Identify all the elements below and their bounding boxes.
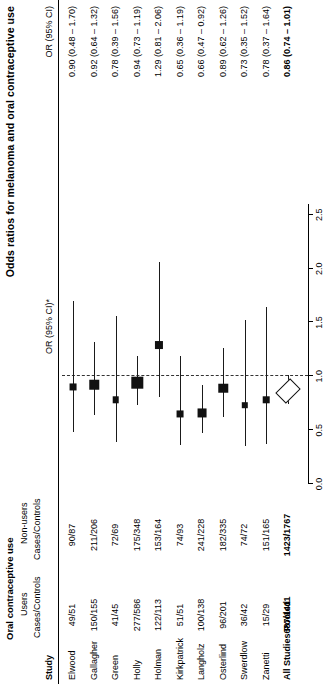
- study-effect-marker: [69, 384, 76, 391]
- column-header-users: Users: [19, 592, 29, 616]
- column-header-study: Study: [44, 655, 54, 680]
- axis-tick-label: 2.5: [314, 209, 324, 222]
- study-name-cell: Green: [105, 655, 127, 680]
- study-effect-marker: [132, 377, 143, 388]
- nonusers-cases-controls-cell: 211/206: [84, 498, 106, 572]
- axis-tick-label: 1.5: [314, 316, 324, 329]
- study-effect-marker: [177, 411, 184, 418]
- nonusers-cases-controls-cell: 182/335: [213, 498, 235, 572]
- axis-tick: [308, 214, 313, 215]
- column-header-nonusers: Non-users: [19, 502, 29, 544]
- nonusers-cases-controls-cell: 74/72: [234, 498, 256, 572]
- study-effect-marker: [155, 341, 163, 349]
- study-effect-marker: [197, 408, 206, 417]
- nonusers-cases-controls-cell: 151/165: [256, 498, 278, 572]
- odds-ratio-cell: 0.65 (0.36 – 1.19): [170, 6, 192, 77]
- odds-ratio-cell: 0.66 (0.47 – 0.92): [191, 6, 213, 77]
- odds-ratio-cell: 0.73 (0.35 – 1.52): [234, 6, 256, 77]
- column-header-or-table: OR (95% CI): [44, 6, 54, 58]
- nonusers-cases-controls-cell: 72/69: [105, 498, 127, 572]
- column-header-users-cases-controls: Cases/Controls: [32, 576, 42, 638]
- users-cases-controls-cell: 687/1411: [277, 580, 299, 650]
- x-axis-line: [308, 204, 309, 484]
- study-effect-marker: [242, 402, 248, 408]
- axis-tick-label: 0.0: [314, 478, 324, 491]
- users-cases-controls-cell: 122/113: [148, 580, 170, 650]
- confidence-interval-bar: [180, 356, 181, 445]
- axis-tick-label: 1.0: [314, 370, 324, 383]
- axis-tick: [308, 321, 313, 322]
- axis-tick: [308, 429, 313, 430]
- confidence-interval-bar: [73, 301, 74, 432]
- confidence-interval-bar: [159, 262, 160, 397]
- nonusers-cases-controls-cell: 175/348: [127, 498, 149, 572]
- confidence-interval-bar: [94, 342, 95, 415]
- confidence-interval-bar: [116, 316, 117, 442]
- nonusers-cases-controls-cell: 90/87: [62, 498, 84, 572]
- study-effect-marker: [219, 383, 228, 392]
- forest-plot-figure: Odds ratios for melanoma and oral contra…: [0, 0, 334, 684]
- pooled-estimate-diamond: [275, 379, 300, 404]
- study-effect-marker: [90, 380, 99, 389]
- odds-ratio-cell: 1.29 (0.81 – 2.06): [148, 6, 170, 77]
- nonusers-cases-controls-cell: 241/228: [191, 498, 213, 572]
- axis-tick-label: 2.0: [314, 262, 324, 275]
- group-header-oral-contraceptive-use: Oral contraceptive use: [4, 538, 15, 640]
- plot-area: 0.00.51.01.52.02.5: [62, 204, 312, 484]
- null-effect-line: [62, 375, 308, 376]
- header-divider-rule: [58, 0, 59, 684]
- users-cases-controls-cell: 41/45: [105, 580, 127, 650]
- odds-ratio-cell: 0.92 (0.64 – 1.32): [84, 6, 106, 77]
- odds-ratio-cell: 0.94 (0.73 – 1.19): [127, 6, 149, 77]
- odds-ratio-cell: 0.78 (0.39 – 1.56): [105, 6, 127, 77]
- column-header-or-plot-axis: OR (95% CI)*: [44, 299, 54, 354]
- nonusers-cases-controls-cell: 74/93: [170, 498, 192, 572]
- study-name-cell: Elwood: [62, 650, 84, 680]
- study-effect-marker: [263, 397, 270, 404]
- study-name-cell: Holman: [148, 649, 170, 680]
- users-cases-controls-cell: 100/138: [191, 580, 213, 650]
- rotated-page-wrapper: Odds ratios for melanoma and oral contra…: [0, 0, 334, 684]
- axis-tick: [308, 483, 313, 484]
- study-effect-marker: [112, 397, 119, 404]
- odds-ratio-cell: 0.78 (0.37 – 1.64): [256, 6, 278, 77]
- axis-tick: [308, 375, 313, 376]
- odds-ratio-cell: 0.90 (0.48 – 1.70): [62, 6, 84, 77]
- users-cases-controls-cell: 150/155: [84, 580, 106, 650]
- study-name-cell: Zanetti: [256, 652, 278, 680]
- nonusers-cases-controls-cell: 153/164: [148, 498, 170, 572]
- users-cases-controls-cell: 51/51: [170, 580, 192, 650]
- figure-canvas: Odds ratios for melanoma and oral contra…: [0, 0, 334, 684]
- axis-tick: [308, 268, 313, 269]
- column-header-nonusers-cases-controls: Cases/Controls: [32, 498, 42, 560]
- odds-ratio-cell: 0.89 (0.62 – 1.26): [213, 6, 235, 77]
- odds-ratio-cell: 0.86 (0.74 – 1.01): [277, 6, 299, 77]
- nonusers-cases-controls-cell: 1423/1767: [277, 498, 299, 572]
- study-name-cell: Holly: [127, 660, 149, 680]
- confidence-interval-bar: [266, 307, 267, 444]
- users-cases-controls-cell: 96/201: [213, 580, 235, 650]
- confidence-interval-bar: [245, 320, 246, 446]
- users-cases-controls-cell: 277/586: [127, 580, 149, 650]
- axis-tick-label: 0.5: [314, 424, 324, 437]
- users-cases-controls-cell: 36/42: [234, 580, 256, 650]
- users-cases-controls-cell: 15/29: [256, 580, 278, 650]
- figure-title: Odds ratios for melanoma and oral contra…: [4, 6, 16, 277]
- users-cases-controls-cell: 49/51: [62, 580, 84, 650]
